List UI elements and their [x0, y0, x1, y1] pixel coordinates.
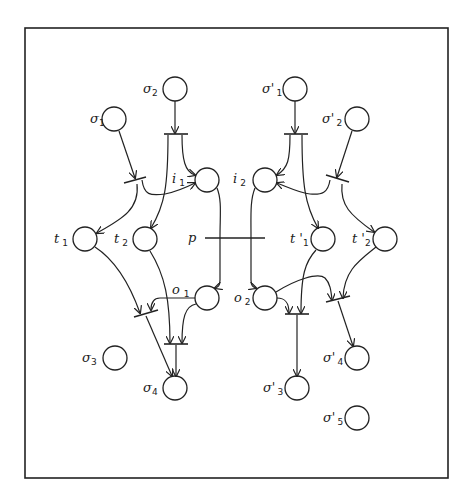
place-sigma-prime3: [285, 376, 309, 400]
label-o2: o2: [234, 290, 251, 307]
petri-net-diagram: σ1 σ2 i1 t1 t2 p o1 σ3 σ4 σ'1 σ'2 i2 t '…: [0, 0, 470, 503]
place-sigma-prime4: [345, 346, 369, 370]
label-t1: t1: [54, 231, 68, 248]
arc-bar-i2-a: [277, 135, 290, 175]
label-i2: i2: [233, 171, 246, 188]
arc-bar-sigma4-a: [146, 316, 172, 376]
place-o1: [195, 286, 219, 310]
transition-bar-t1-o1: [134, 310, 158, 317]
arc-bar-t-prime1: [302, 135, 318, 228]
place-t2: [133, 227, 157, 251]
place-o2: [253, 286, 277, 310]
diagram-frame: [25, 28, 448, 478]
arc-o2-bar-a: [277, 298, 289, 313]
place-t-prime1: [311, 227, 335, 251]
place-sigma-prime2: [345, 107, 369, 131]
arc-t2-bar: [150, 251, 170, 343]
place-sigma2: [163, 77, 187, 101]
place-sigma3: [103, 346, 127, 370]
label-t2: t2: [114, 231, 128, 248]
arc-bar-t2: [151, 135, 168, 228]
arc-bar-t1: [97, 184, 137, 233]
place-sigma-prime5: [345, 406, 369, 430]
label-sigma4: σ4: [143, 380, 158, 397]
label-sigma1: σ1: [90, 111, 105, 128]
label-o1: o1: [172, 282, 190, 299]
arc-t1-bar: [95, 247, 140, 313]
label-t-prime1: t '1: [290, 231, 309, 248]
arc-sigma1-bar: [119, 131, 135, 178]
place-i1: [195, 168, 219, 192]
place-t1: [73, 227, 97, 251]
label-sigma-prime2: σ'2: [322, 111, 342, 128]
arc-bar-i1-a: [182, 135, 195, 175]
place-sigma-prime1: [283, 77, 307, 101]
label-p: p: [188, 230, 197, 245]
arc-bar-sigma-prime4: [338, 301, 353, 346]
label-t-prime2: t '2: [352, 231, 371, 248]
place-i2: [253, 168, 277, 192]
arc-bar-t-prime2: [342, 184, 374, 232]
label-sigma2: σ2: [143, 81, 158, 98]
place-sigma4: [163, 376, 187, 400]
arc-t-prime1-bar: [301, 250, 316, 313]
arc-t-prime2-bar: [343, 247, 376, 298]
arc-o1-bar-b: [182, 304, 196, 343]
arc-o2-bar-b: [276, 276, 332, 300]
arc-bar-i1-b: [142, 180, 195, 195]
label-sigma3: σ3: [82, 350, 97, 367]
label-i1: i1: [172, 171, 185, 188]
label-sigma-prime5: σ'5: [323, 410, 343, 427]
place-sigma1: [102, 107, 126, 131]
label-sigma-prime3: σ'3: [263, 380, 283, 397]
arc-sigma-prime2-bar: [337, 131, 352, 177]
label-sigma-prime1: σ'1: [262, 81, 282, 98]
label-sigma-prime4: σ'4: [323, 350, 343, 367]
place-t-prime2: [373, 227, 397, 251]
